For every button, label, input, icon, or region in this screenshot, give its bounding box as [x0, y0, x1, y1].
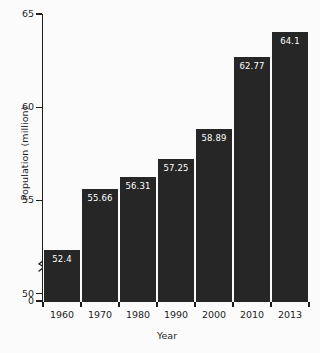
x-axis-tick	[80, 302, 81, 307]
y-axis-tick-label: 60	[0, 101, 34, 112]
y-axis-tick	[36, 107, 42, 108]
y-axis-tick	[36, 13, 42, 14]
bar[interactable]: 52.4	[43, 250, 81, 302]
x-axis-title: Year	[42, 330, 292, 341]
x-axis-tick	[232, 302, 233, 307]
bar-value-label: 56.31	[120, 181, 156, 191]
x-axis-tick	[194, 302, 195, 307]
bar-value-label: 62.77	[234, 61, 270, 71]
bar-chart-figure: Population (million) Year 050556065 1960…	[0, 0, 320, 353]
x-axis-tick	[118, 302, 119, 307]
bar[interactable]: 57.25	[157, 159, 195, 302]
y-axis-tick-label: 65	[0, 8, 34, 19]
y-axis-tick-label: 55	[0, 194, 34, 205]
bar-value-label: 57.25	[158, 163, 194, 173]
bar-value-label: 64.1	[272, 36, 308, 46]
bar[interactable]: 56.31	[119, 177, 157, 302]
y-axis-tick	[36, 300, 42, 301]
y-axis-tick-label: 50	[0, 288, 34, 299]
x-axis-tick	[42, 302, 43, 307]
bar[interactable]: 55.66	[81, 189, 119, 302]
bar-value-label: 52.4	[44, 254, 80, 264]
plot-area: 52.455.6656.3157.2558.8962.7764.1	[43, 14, 309, 302]
bar[interactable]: 58.89	[195, 129, 233, 302]
bar-value-label: 58.89	[196, 133, 232, 143]
y-axis-title: Population (million)	[19, 74, 30, 234]
x-axis-tick-label: 2013	[268, 309, 312, 320]
x-axis-tick	[270, 302, 271, 307]
bar[interactable]: 62.77	[233, 57, 271, 302]
x-axis-tick	[156, 302, 157, 307]
y-axis-tick	[36, 200, 42, 201]
x-axis-tick	[308, 302, 309, 307]
y-axis-tick	[36, 293, 42, 294]
bar[interactable]: 64.1	[271, 32, 309, 302]
bar-value-label: 55.66	[82, 193, 118, 203]
